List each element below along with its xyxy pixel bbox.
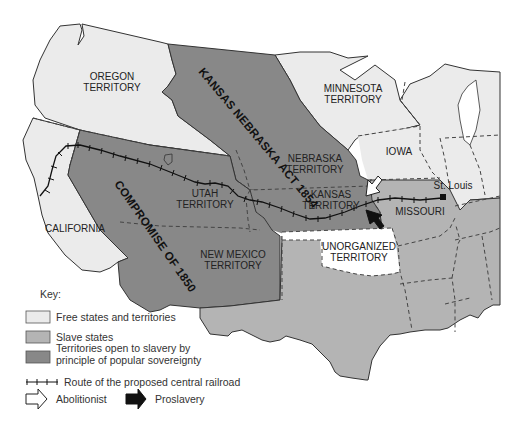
label-nebraska: NEBRASKA [288, 153, 343, 164]
label-unorganized: UNORGANIZED [322, 241, 396, 252]
legend-swatch-popular-sovereignty [26, 351, 50, 363]
legend-swatch-slave [26, 331, 50, 343]
st-louis-marker [440, 194, 446, 200]
legend-label-popular-sovereignty-2: principle of popular sovereignty [56, 354, 202, 366]
label-new-mexico: NEW MEXICO [200, 249, 266, 260]
label-minnesota: MINNESOTA [324, 83, 383, 94]
label-utah-territory: TERRITORY [176, 199, 234, 210]
legend-label-popular-sovereignty: Territories open to slavery by [56, 342, 191, 354]
legend-swatch-free [26, 311, 50, 323]
label-iowa: IOWA [386, 146, 413, 157]
legend-title: Key: [40, 288, 61, 300]
map-canvas: OREGON TERRITORY MINNESOTA TERRITORY IOW… [0, 0, 523, 426]
legend-label-abolitionist: Abolitionist [56, 393, 107, 405]
legend-label-free: Free states and territories [56, 311, 176, 323]
label-california: CALIFORNIA [45, 223, 105, 234]
legend-abolitionist-arrow-icon [26, 389, 47, 409]
label-unorganized-territory: TERRITORY [330, 252, 388, 263]
label-utah: UTAH [192, 188, 218, 199]
label-new-mexico-territory: TERRITORY [204, 260, 262, 271]
label-oregon-territory: TERRITORY [83, 82, 141, 93]
legend-label-railroad: Route of the proposed central railroad [64, 376, 240, 388]
label-missouri: MISSOURI [395, 206, 444, 217]
legend-label-proslavery: Proslavery [155, 393, 205, 405]
label-st-louis: St. Louis [434, 180, 473, 191]
label-minnesota-territory: TERRITORY [324, 94, 382, 105]
label-oregon: OREGON [90, 71, 134, 82]
legend-railroad-icon [26, 379, 58, 385]
legend-proslavery-arrow-icon [126, 389, 146, 409]
